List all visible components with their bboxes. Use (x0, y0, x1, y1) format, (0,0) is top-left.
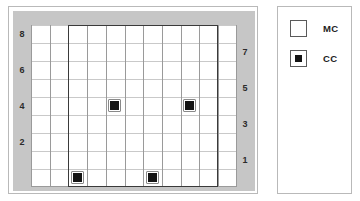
legend-label-cc: CC (323, 53, 337, 64)
axis-left-tick-8: 8 (14, 30, 30, 39)
legend-panel: MC CC (277, 6, 352, 194)
legend-label-mc: MC (323, 23, 338, 34)
legend-swatch-empty-square-icon (290, 20, 307, 37)
cc-marker (147, 172, 158, 183)
axis-left-tick-4: 4 (14, 102, 30, 111)
grid-lines (31, 25, 237, 187)
cc-marker (72, 172, 83, 183)
legend-item-cc[interactable]: CC (290, 50, 337, 67)
cc-marker (184, 100, 195, 111)
legend-item-mc[interactable]: MC (290, 20, 338, 37)
axis-right-tick-7: 7 (237, 48, 253, 57)
axis-left-tick-6: 6 (14, 66, 30, 75)
plot-panel: 8642 7531 (8, 6, 258, 194)
legend-swatch-square-with-dot-icon (290, 50, 307, 67)
axis-right-tick-5: 5 (237, 84, 253, 93)
axis-right-tick-3: 3 (237, 120, 253, 129)
axis-right-tick-1: 1 (237, 156, 253, 165)
axis-left-tick-2: 2 (14, 138, 30, 147)
grid-field (31, 25, 237, 187)
grid-edge-bottom (31, 186, 237, 187)
cc-marker (109, 100, 120, 111)
